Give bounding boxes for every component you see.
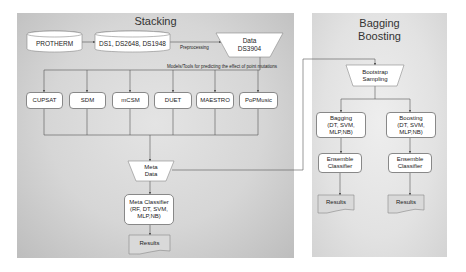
- boosting-models-1: (DT, SVM,: [397, 122, 424, 129]
- ensemble-label: Ensemble: [397, 156, 424, 163]
- ensemble-classifier-right: Ensemble Classifier: [388, 153, 432, 173]
- preprocessing-label: Preprocessing: [180, 45, 209, 50]
- classifier-label: Classifier: [398, 163, 423, 170]
- protherm-label: PROTHERM: [27, 40, 82, 47]
- protherm-node: PROTHERM: [27, 33, 82, 51]
- meta-data-node: Meta Data: [136, 162, 166, 180]
- boosting-models-2: MLP,NB): [399, 129, 423, 136]
- meta-classifier-models-2: MLP,NB): [137, 213, 161, 220]
- data-label: Data: [243, 37, 257, 45]
- meta-classifier-node: Meta Classifier (RF, DT, SVM, MLP,NB): [124, 194, 174, 225]
- meta-classifier-title: Meta Classifier: [129, 199, 169, 206]
- results-bagging: Results: [318, 195, 354, 210]
- tool-sdm: SDM: [69, 92, 106, 109]
- ensemble-label: Ensemble: [327, 156, 354, 163]
- results-boosting: Results: [388, 195, 424, 210]
- tool-duet: DUET: [154, 92, 192, 109]
- bagging-title: Bagging: [312, 17, 447, 30]
- results-stacking: Results: [129, 235, 170, 251]
- ensemble-classifier-left: Ensemble Classifier: [318, 153, 362, 173]
- bagging-models-2: MLP,NB): [329, 129, 353, 136]
- sampling-label: Sampling: [362, 76, 387, 83]
- meta-label: Meta: [144, 164, 157, 171]
- boosting-node: Boosting (DT, SVM, MLP,NB): [386, 112, 436, 138]
- classifier-label: Classifier: [328, 163, 353, 170]
- bagging-label: Bagging: [330, 115, 352, 122]
- bootstrap-sampling-node: Bootstrap Sampling: [353, 67, 397, 85]
- data-ds3904-node: Data DS3904: [229, 35, 270, 55]
- datasets-node: DS1, DS2648, DS1948: [95, 33, 170, 51]
- tool-maestro: MAESTRO: [196, 92, 234, 109]
- meta-classifier-models-1: (RF, DT, SVM,: [130, 206, 168, 213]
- bootstrap-label: Bootstrap: [362, 69, 388, 76]
- tool-popmusic: PoPMusic: [239, 92, 278, 109]
- bagging-node: Bagging (DT, SVM, MLP,NB): [316, 112, 366, 138]
- bagging-models-1: (DT, SVM,: [327, 122, 354, 129]
- ds3904-label: DS3904: [238, 45, 262, 53]
- data-label: Data: [145, 171, 158, 178]
- boosting-label: Boosting: [399, 115, 422, 122]
- tool-cupsat: CUPSAT: [26, 92, 63, 109]
- tools-caption: Models/Tools for predicting the effect o…: [167, 64, 277, 69]
- boosting-title: Boosting: [312, 30, 447, 43]
- bagging-boosting-title: Bagging Boosting: [312, 17, 447, 43]
- tool-mcsm: mCSM: [112, 92, 149, 109]
- datasets-label: DS1, DS2648, DS1948: [95, 40, 170, 47]
- stacking-title: Stacking: [17, 15, 294, 28]
